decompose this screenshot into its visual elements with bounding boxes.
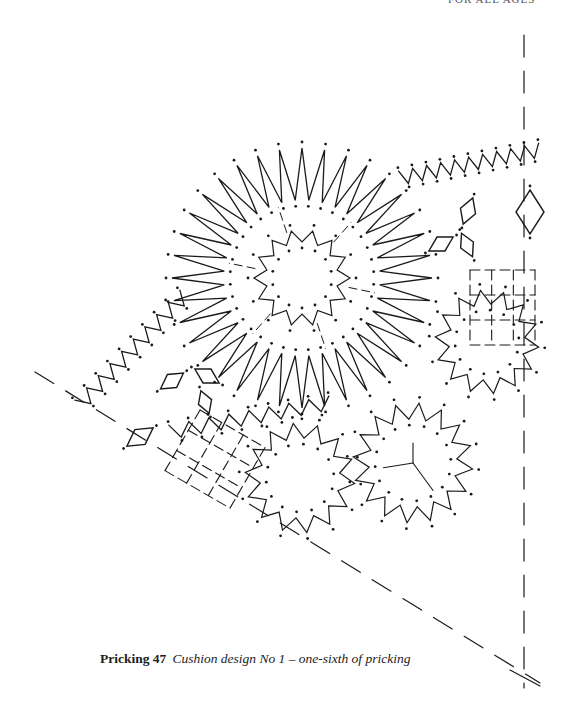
lower-left-edge [169, 396, 329, 437]
figure-caption: Pricking 47Cushion design No 1 – one-six… [100, 651, 410, 667]
caption-description: Cushion design No 1 – one-sixth of prick… [172, 651, 410, 666]
grid-areas [165, 270, 535, 508]
large-flower-motif [165, 141, 440, 416]
diamond-motifs [117, 185, 544, 457]
diamond [516, 185, 544, 240]
diamond [192, 383, 217, 420]
small-flower-2 [238, 416, 362, 540]
boundary-lines [35, 35, 540, 688]
small-flower-1 [428, 283, 546, 401]
diamond [454, 190, 482, 232]
diamond [152, 363, 193, 398]
caption-label: Pricking 47 [100, 651, 166, 666]
diagonal-axis [35, 372, 540, 683]
small-flower-motifs [238, 283, 546, 540]
pricking-diagram [0, 0, 574, 709]
top-edge [399, 143, 539, 183]
diamond [186, 359, 228, 392]
diamond [453, 225, 481, 264]
right-grid [470, 270, 535, 345]
left-edge [75, 290, 184, 404]
